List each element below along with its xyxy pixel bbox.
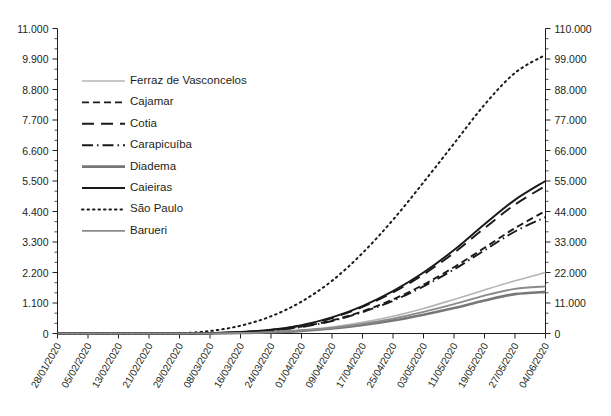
y-axis-right-tick-label: 66.000 — [555, 145, 587, 157]
y-axis-left-tick-label: 9.900 — [22, 53, 48, 65]
y-axis-left-tick-label: 6.600 — [22, 145, 48, 157]
y-axis-right-tick-label: 0 — [555, 328, 561, 340]
y-axis-left-tick-label: 2.200 — [22, 267, 48, 279]
chart-container: 01.1002.2003.3004.4005.5006.6007.7008.80… — [0, 0, 611, 416]
legend-label-cotia: Cotia — [130, 117, 157, 129]
y-axis-left-tick-label: 5.500 — [22, 175, 48, 187]
legend-label-caieiras: Caieiras — [130, 181, 172, 193]
y-axis-left-tick-label: 0 — [43, 328, 49, 340]
y-axis-left-tick-label: 1.100 — [22, 297, 48, 309]
y-axis-left-tick-label: 8.800 — [22, 84, 48, 96]
y-axis-left-tick-label: 4.400 — [22, 206, 48, 218]
y-axis-right-tick-label: 55.000 — [555, 175, 587, 187]
legend-label-barueri: Barueri — [130, 224, 167, 236]
y-axis-right-tick-label: 110.000 — [555, 23, 592, 35]
legend-label-cajamar: Cajamar — [130, 95, 174, 107]
y-axis-right-tick-label: 11.000 — [555, 297, 586, 309]
y-axis-right-tick-label: 77.000 — [555, 114, 587, 126]
y-axis-right-tick-label: 33.000 — [555, 236, 587, 248]
y-axis-right-tick-label: 44.000 — [555, 206, 587, 218]
y-axis-right-tick-label: 99.000 — [555, 53, 587, 65]
y-axis-left-tick-label: 3.300 — [22, 236, 48, 248]
y-axis-left-tick-label: 7.700 — [22, 114, 48, 126]
legend-label-carapicu-ba: Carapicuíba — [130, 138, 193, 150]
line-chart: 01.1002.2003.3004.4005.5006.6007.7008.80… — [0, 0, 611, 416]
y-axis-right-tick-label: 88.000 — [555, 84, 587, 96]
plot-background — [0, 0, 611, 416]
y-axis-right-tick-label: 22.000 — [555, 267, 587, 279]
y-axis-left-tick-label: 11.000 — [17, 23, 48, 35]
legend-label-ferraz-de-vasconcelos: Ferraz de Vasconcelos — [130, 74, 247, 86]
legend-label-s-o-paulo: São Paulo — [130, 202, 183, 214]
legend-label-diadema: Diadema — [130, 160, 177, 172]
